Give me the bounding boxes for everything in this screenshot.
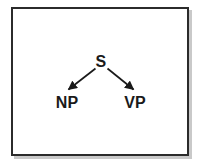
tree-node-vp: VP xyxy=(68,95,202,111)
figure-frame xyxy=(11,7,189,156)
figure-canvas: S NP VP xyxy=(0,0,202,167)
tree-node-s: S xyxy=(0,54,202,70)
